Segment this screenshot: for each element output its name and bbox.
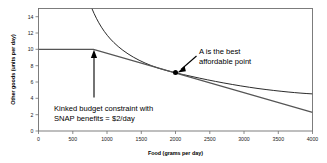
y-tick-label: 2 — [31, 112, 34, 118]
y-axis-tick-labels: 0 2 4 6 8 10 12 14 — [28, 14, 34, 134]
y-tick-label: 8 — [31, 63, 34, 69]
x-tick-label: 2000 — [170, 136, 182, 142]
x-tick-label: 1000 — [101, 136, 113, 142]
y-tick-label: 0 — [31, 128, 34, 134]
chart-svg: 0 2 4 6 8 10 12 14 0 500 1000 1500 — [0, 0, 327, 163]
point-a-annotation-line1: A is the best — [199, 47, 241, 56]
x-axis-tick-labels: 0 500 1000 1500 2000 2500 3000 3500 4000 — [37, 136, 318, 142]
budget-constraint-annotation-line2: SNAP benefits = $2/day — [54, 114, 135, 123]
point-a-marker — [173, 70, 178, 75]
x-tick-label: 3000 — [238, 136, 250, 142]
y-tick-label: 12 — [28, 30, 34, 36]
chart-figure: 0 2 4 6 8 10 12 14 0 500 1000 1500 — [0, 0, 327, 163]
x-tick-label: 3500 — [273, 136, 285, 142]
y-tick-label: 6 — [31, 79, 34, 85]
x-tick-label: 0 — [37, 136, 40, 142]
y-tick-label: 4 — [31, 95, 34, 101]
y-tick-label: 14 — [28, 14, 34, 20]
x-axis-title: Food (grams per day) — [148, 150, 203, 156]
x-tick-label: 1500 — [136, 136, 148, 142]
point-a-annotation-line2: affordable point — [199, 57, 252, 66]
x-tick-label: 4000 — [307, 136, 319, 142]
budget-constraint-annotation-line1: Kinked budget constraint with — [54, 104, 153, 113]
y-tick-label: 10 — [28, 46, 34, 52]
x-tick-label: 500 — [68, 136, 77, 142]
x-tick-label: 2500 — [204, 136, 216, 142]
y-axis-title: Other goods (units per day) — [10, 34, 16, 105]
